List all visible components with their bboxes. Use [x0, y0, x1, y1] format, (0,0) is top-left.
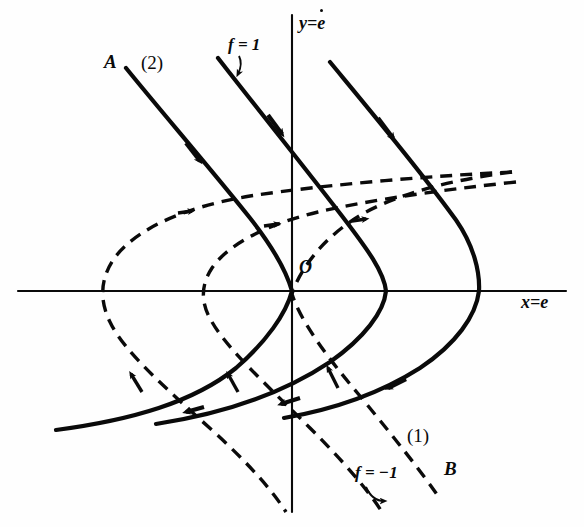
label-f-equals-one: f = 1 — [228, 36, 260, 53]
label-f-equals-minus-one: f = −1 — [355, 464, 398, 481]
label-pointer-group — [238, 56, 384, 501]
dashed-flow-arrows — [131, 211, 366, 392]
dashed-arrow-top-left — [178, 211, 192, 213]
phase-plane-svg — [0, 0, 584, 527]
solid-arrow-outer-upper — [378, 118, 393, 138]
dashed-arrow-low-right — [328, 368, 338, 388]
label-origin: O — [299, 258, 312, 276]
y-axis-equals: = — [307, 13, 317, 33]
solid-arrow-mid-lower — [281, 398, 300, 404]
y-axis-var-e-dot: e — [317, 14, 325, 32]
label-curve-A: A — [104, 52, 117, 71]
dashed-arrow-top-right — [352, 219, 366, 221]
x-axis-var-e: e — [540, 292, 548, 312]
x-axis-equals: = — [530, 292, 540, 312]
label-y-axis: y=e — [299, 14, 325, 32]
label-curve-1: (1) — [407, 426, 429, 445]
phase-plane-figure: A (2) f = 1 (1) f = −1 B O x=e y=e — [0, 0, 584, 527]
dashed-switching-curve-B — [292, 172, 512, 496]
solid-curve-outer — [284, 62, 479, 418]
x-axis-var-x: x — [521, 292, 530, 312]
solid-curve-middle — [156, 58, 386, 424]
dashed-arrow-low-mid — [228, 374, 238, 392]
label-curve-B: B — [444, 459, 457, 478]
label-x-axis: x=e — [521, 293, 548, 311]
f-positive-pointer-arrow — [238, 56, 241, 74]
y-axis-var-y: y — [299, 13, 307, 33]
label-curve-2: (2) — [141, 53, 163, 72]
dashed-arrow-top-mid — [264, 224, 278, 226]
axis-group — [18, 15, 566, 512]
f-negative-pointer-arrow — [366, 487, 384, 501]
dashed-arrow-low-left — [131, 374, 142, 392]
solid-trajectory-family — [56, 58, 479, 430]
